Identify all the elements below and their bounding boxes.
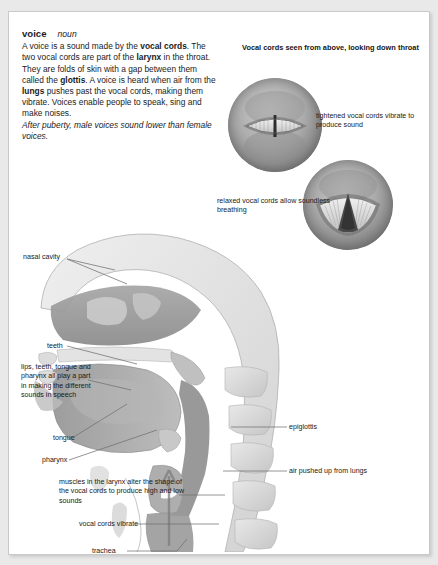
definition-seg-6: . A voice is heard when air from the bbox=[85, 75, 215, 85]
definition-seg-0: A voice is a sound made by the bbox=[22, 41, 140, 51]
headword: voice bbox=[22, 28, 47, 39]
label-teeth: teeth bbox=[47, 342, 63, 351]
inset-top-rim bbox=[228, 78, 322, 172]
label-tongue: tongue bbox=[53, 434, 75, 443]
label-trachea: trachea bbox=[92, 547, 116, 555]
definition-block: voicenoun A voice is a sound made by the… bbox=[22, 28, 218, 142]
page-sheet: voicenoun A voice is a sound made by the… bbox=[8, 11, 430, 555]
label-lips-teeth-tongue-pharynx: lips, teeth, tongue and pharynx all play… bbox=[21, 363, 95, 400]
definition-body: A voice is a sound made by the vocal cor… bbox=[22, 41, 218, 119]
definition-seg-8: pushes past the vocal cords, making them… bbox=[22, 86, 203, 118]
label-air-pushed-up-from-lungs: air pushed up from lungs bbox=[289, 467, 367, 476]
definition-seg-5: glottis bbox=[60, 75, 85, 85]
part-of-speech: noun bbox=[58, 29, 77, 39]
definition-seg-3: larynx bbox=[137, 52, 162, 62]
label-nasal-cavity: nasal cavity bbox=[23, 253, 60, 262]
insets-heading: Vocal cords seen from above, looking dow… bbox=[242, 43, 430, 53]
label-larynx-muscles: muscles in the larynx alter the shape of… bbox=[59, 478, 187, 506]
label-epiglottis: epiglottis bbox=[289, 423, 317, 432]
definition-seg-7: lungs bbox=[22, 86, 44, 96]
inset-bottom-label: relaxed vocal cords allow soundless brea… bbox=[217, 197, 335, 216]
label-pharynx: pharynx bbox=[42, 456, 67, 465]
inset-top-label: tightened vocal cords vibrate to produce… bbox=[316, 112, 430, 131]
label-vocal-cords-vibrate: vocal cords vibrate bbox=[79, 520, 138, 529]
definition-seg-1: vocal cords bbox=[140, 41, 187, 51]
definition-italic-note: After puberty, male voices sound lower t… bbox=[22, 120, 218, 142]
inset-tightened-vocal-cords bbox=[228, 78, 322, 172]
